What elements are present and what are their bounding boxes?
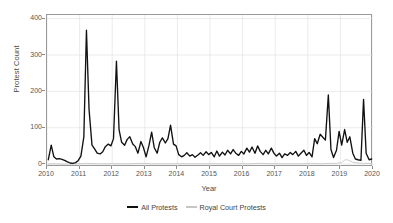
y-tick-label: 400 — [2, 13, 42, 22]
x-tick-mark — [176, 166, 177, 169]
x-tick-label: 2020 — [357, 170, 387, 177]
y-tick-label: 200 — [2, 86, 42, 95]
plot-panel — [46, 14, 372, 166]
gridlines — [47, 15, 373, 167]
x-tick-mark — [46, 166, 47, 169]
protest-count-chart-figure: Protest Count 0100200300400 201020112012… — [0, 0, 393, 223]
x-tick-label: 2012 — [96, 170, 126, 177]
legend-key-all-protests — [127, 206, 138, 208]
x-tick-label: 2017 — [259, 170, 289, 177]
x-tick-mark — [339, 166, 340, 169]
y-tick-mark — [42, 54, 45, 55]
x-tick-mark — [274, 166, 275, 169]
chart-legend: All Protests Royal Court Protests — [0, 200, 393, 214]
x-axis-title: Year — [46, 184, 372, 193]
y-axis-ticks: 0100200300400 — [0, 14, 42, 166]
legend-label-royal-court-protests: Royal Court Protests — [200, 203, 266, 212]
x-tick-label: 2013 — [129, 170, 159, 177]
x-tick-label: 2019 — [324, 170, 354, 177]
x-tick-mark — [209, 166, 210, 169]
y-tick-label: 0 — [2, 159, 42, 168]
x-tick-label: 2011 — [64, 170, 94, 177]
y-tick-mark — [42, 163, 45, 164]
x-tick-label: 2016 — [227, 170, 257, 177]
x-tick-label: 2018 — [292, 170, 322, 177]
x-tick-label: 2014 — [161, 170, 191, 177]
x-tick-label: 2015 — [194, 170, 224, 177]
x-tick-mark — [144, 166, 145, 169]
y-tick-label: 100 — [2, 122, 42, 131]
legend-label-all-protests: All Protests — [141, 203, 177, 212]
x-tick-label: 2010 — [31, 170, 61, 177]
y-tick-mark — [42, 18, 45, 19]
y-tick-mark — [42, 90, 45, 91]
y-tick-mark — [42, 127, 45, 128]
y-tick-label: 300 — [2, 50, 42, 59]
x-tick-mark — [111, 166, 112, 169]
legend-item-all-protests[interactable]: All Protests — [127, 203, 177, 212]
plot-svg — [47, 15, 373, 167]
x-tick-mark — [79, 166, 80, 169]
legend-item-royal-court-protests[interactable]: Royal Court Protests — [186, 203, 266, 212]
x-axis-ticks: 2010201120122013201420152016201720182019… — [46, 166, 372, 182]
x-tick-mark — [307, 166, 308, 169]
x-tick-mark — [242, 166, 243, 169]
x-tick-mark — [372, 166, 373, 169]
legend-key-royal-court-protests — [186, 206, 197, 207]
